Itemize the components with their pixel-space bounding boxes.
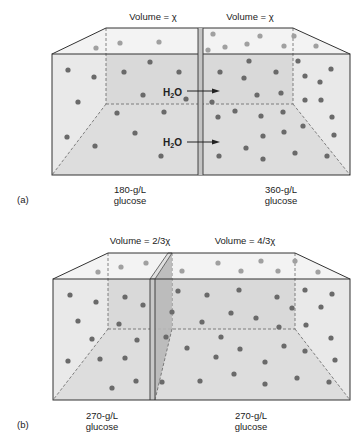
box-top-face [53, 253, 350, 279]
right-concentration: 360-g/L [265, 184, 297, 195]
panel-b: Volume = 2/3χ Volume = 4/3χ 270-g/L gluc… [17, 235, 350, 432]
left-solute: glucose [86, 421, 119, 432]
left-volume-label: Volume = 2/3χ [110, 235, 171, 246]
membrane-partition [198, 28, 203, 175]
right-volume-label: Volume = 4/3χ [215, 235, 276, 246]
left-concentration: 180-g/L [114, 184, 146, 195]
panel-a-tag: (a) [17, 194, 29, 205]
panel-b-tag: (b) [17, 419, 29, 430]
panel-a: H2O H2O Volume = χ Volume = χ 180-g/L gl… [17, 11, 350, 206]
left-volume-label: Volume = χ [129, 11, 177, 22]
right-solute: glucose [235, 421, 268, 432]
osmosis-diagram: H2O H2O Volume = χ Volume = χ 180-g/L gl… [0, 0, 364, 446]
right-volume-label: Volume = χ [226, 11, 274, 22]
left-solute: glucose [114, 195, 147, 206]
right-concentration: 270-g/L [235, 410, 267, 421]
right-solute: glucose [265, 195, 298, 206]
left-concentration: 270-g/L [86, 410, 118, 421]
